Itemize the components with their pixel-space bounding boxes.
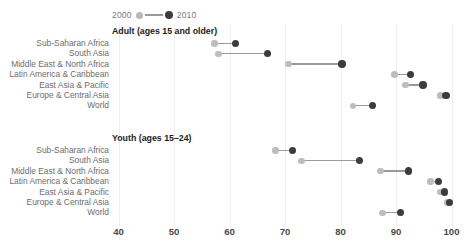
data-point-2000[interactable] xyxy=(272,147,278,153)
plot-area-youth: Sub-Saharan AfricaSouth AsiaMiddle East … xyxy=(0,145,464,218)
data-point-2010[interactable] xyxy=(407,71,414,78)
plot-area-adult: Sub-Saharan AfricaSouth AsiaMiddle East … xyxy=(0,38,464,111)
data-point-2000[interactable] xyxy=(350,103,356,109)
data-point-2010[interactable] xyxy=(397,209,404,216)
row-label: East Asia & Pacific xyxy=(0,187,109,197)
data-point-2010[interactable] xyxy=(232,40,239,47)
chart-row: Sub-Saharan Africa xyxy=(0,145,464,155)
data-point-2010[interactable] xyxy=(419,81,426,88)
row-label: Sub-Saharan Africa xyxy=(0,38,109,48)
row-label: Latin America & Caribbean xyxy=(0,176,109,186)
data-point-2000[interactable] xyxy=(215,51,221,57)
legend-connector-line xyxy=(145,14,163,16)
x-axis: 405060708090100 xyxy=(0,226,464,244)
data-point-2000[interactable] xyxy=(379,210,385,216)
data-point-2010[interactable] xyxy=(435,178,442,185)
legend-label-2000: 2000 xyxy=(112,10,132,20)
data-point-2010[interactable] xyxy=(338,60,345,67)
chart-row: Middle East & North Africa xyxy=(0,59,464,69)
axis-tick-label: 90 xyxy=(391,226,402,237)
panel-title-adult: Adult (ages 15 and older) xyxy=(112,26,217,36)
chart-row: East Asia & Pacific xyxy=(0,80,464,90)
data-point-2010[interactable] xyxy=(369,102,376,109)
legend-label-2010: 2010 xyxy=(177,10,197,20)
data-point-2000[interactable] xyxy=(298,158,304,164)
chart-row: Europe & Central Asia xyxy=(0,90,464,100)
data-point-2010[interactable] xyxy=(356,157,363,164)
data-point-2000[interactable] xyxy=(285,61,291,67)
data-point-2000[interactable] xyxy=(427,178,433,184)
chart-row: Middle East & North Africa xyxy=(0,166,464,176)
chart-row: South Asia xyxy=(0,48,464,58)
axis-tick-label: 80 xyxy=(335,226,346,237)
data-point-2000[interactable] xyxy=(402,82,408,88)
data-point-2010[interactable] xyxy=(442,92,449,99)
data-point-2010[interactable] xyxy=(264,50,271,57)
row-label: Sub-Saharan Africa xyxy=(0,145,109,155)
data-point-2000[interactable] xyxy=(211,40,217,46)
chart-row: Europe & Central Asia xyxy=(0,197,464,207)
chart-row: South Asia xyxy=(0,155,464,165)
axis-tick-label: 50 xyxy=(169,226,180,237)
data-point-2010[interactable] xyxy=(446,199,453,206)
axis-tick-label: 100 xyxy=(443,226,459,237)
chart-row: World xyxy=(0,207,464,217)
chart-row: Latin America & Caribbean xyxy=(0,176,464,186)
axis-tick-label: 70 xyxy=(280,226,291,237)
chart-row: World xyxy=(0,100,464,110)
data-point-2010[interactable] xyxy=(289,147,296,154)
change-connector xyxy=(302,160,360,162)
change-connector xyxy=(218,53,267,55)
row-label: Europe & Central Asia xyxy=(0,90,109,100)
axis-tick-label: 60 xyxy=(224,226,235,237)
data-point-2000[interactable] xyxy=(377,168,383,174)
data-point-2010[interactable] xyxy=(405,167,412,174)
row-label: World xyxy=(0,100,109,110)
row-label: South Asia xyxy=(0,155,109,165)
chart-row: East Asia & Pacific xyxy=(0,187,464,197)
row-label: South Asia xyxy=(0,48,109,58)
row-label: World xyxy=(0,207,109,217)
axis-tick-label: 40 xyxy=(113,226,124,237)
row-label: Middle East & North Africa xyxy=(0,59,109,69)
chart-row: Latin America & Caribbean xyxy=(0,69,464,79)
change-connector xyxy=(288,63,342,65)
row-label: Middle East & North Africa xyxy=(0,166,109,176)
chart-legend: 2000 2010 xyxy=(112,8,196,22)
data-point-2010[interactable] xyxy=(441,188,448,195)
row-label: Latin America & Caribbean xyxy=(0,69,109,79)
panel-title-youth: Youth (ages 15–24) xyxy=(112,133,192,143)
legend-marker-2000 xyxy=(136,12,143,19)
row-label: East Asia & Pacific xyxy=(0,80,109,90)
data-point-2000[interactable] xyxy=(391,71,397,77)
literacy-rate-dumbbell-chart: 2000 2010 Adult (ages 15 and older) Sub-… xyxy=(0,0,464,244)
legend-marker-2010 xyxy=(165,11,173,19)
row-label: Europe & Central Asia xyxy=(0,197,109,207)
chart-row: Sub-Saharan Africa xyxy=(0,38,464,48)
